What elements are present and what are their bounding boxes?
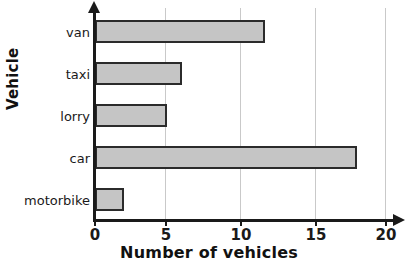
gridline-20 xyxy=(385,8,386,220)
x-tick-label-20: 20 xyxy=(366,226,406,244)
x-tick-label-0: 0 xyxy=(75,226,115,244)
x-axis-line xyxy=(95,219,395,222)
x-axis-title: Number of vehicles xyxy=(0,243,418,262)
x-tick-5 xyxy=(165,219,167,226)
y-label-van: van xyxy=(4,25,90,40)
bar-van[interactable] xyxy=(95,20,265,43)
x-tick-label-10: 10 xyxy=(221,226,261,244)
y-label-lorry: lorry xyxy=(4,109,90,124)
gridline-15 xyxy=(315,8,316,220)
x-axis-arrow-icon xyxy=(393,214,405,226)
y-axis-arrow-icon xyxy=(88,1,100,13)
bar-lorry[interactable] xyxy=(95,104,167,127)
bar-chart: Vehicle van taxi lorry car motorbike 0 5… xyxy=(0,0,418,267)
x-tick-label-15: 15 xyxy=(296,226,336,244)
bar-motorbike[interactable] xyxy=(95,188,124,211)
x-tick-0 xyxy=(94,219,96,226)
y-axis-line xyxy=(93,12,96,222)
y-label-taxi: taxi xyxy=(4,67,90,82)
x-tick-label-5: 5 xyxy=(146,226,186,244)
x-tick-10 xyxy=(240,219,242,226)
x-tick-20 xyxy=(385,219,387,226)
y-label-car: car xyxy=(4,151,90,166)
bar-taxi[interactable] xyxy=(95,62,182,85)
bar-car[interactable] xyxy=(95,146,357,169)
y-label-motorbike: motorbike xyxy=(4,193,90,208)
x-tick-15 xyxy=(315,219,317,226)
